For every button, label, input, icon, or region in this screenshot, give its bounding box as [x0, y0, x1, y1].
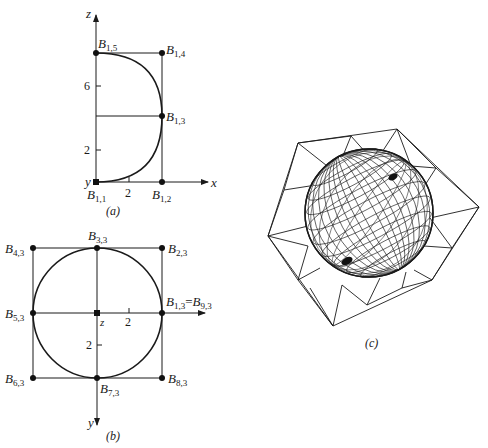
point-b83 [159, 375, 165, 381]
tick-label-x-2: 2 [125, 186, 131, 200]
y-axis-label-b: y [86, 415, 94, 430]
point-b43 [30, 245, 36, 251]
label-b73: B7,3 [100, 381, 120, 398]
label-b23: B2,3 [168, 241, 188, 258]
panel-b: 2 2 z y B4,3 B3,3 B2,3 B5,3 B1,3=B9,3 B6… [5, 228, 212, 443]
point-b12 [159, 179, 165, 185]
caption-b: (b) [106, 429, 120, 443]
label-b53: B5,3 [5, 306, 25, 323]
semicircle-curve [96, 53, 162, 182]
panel-c: (c) [268, 128, 479, 350]
label-b14: B1,4 [166, 42, 186, 59]
point-b23 [159, 245, 165, 251]
panel-a: 6 2 2 z x y B1,5 B1,4 B1,3 B1,1 B1,2 (a) [83, 6, 217, 218]
point-b14 [159, 50, 165, 56]
z-axis-label-b: z [99, 316, 105, 328]
x-axis-label: x [210, 175, 217, 190]
label-b11: B1,1 [87, 187, 106, 204]
point-b63 [30, 375, 36, 381]
control-polygon [96, 53, 162, 182]
label-b13: B1,3 [166, 109, 186, 126]
tick-label-z-6: 6 [84, 79, 90, 93]
label-b63: B6,3 [5, 371, 25, 388]
label-b43: B4,3 [5, 241, 25, 258]
z-axis-label: z [85, 6, 91, 21]
tick-label-x-2-b: 2 [125, 315, 131, 329]
tick-label-z-2: 2 [84, 143, 90, 157]
tick-label-y-2-b: 2 [86, 338, 92, 352]
figure-canvas: 6 2 2 z x y B1,5 B1,4 B1,3 B1,1 B1,2 (a)… [0, 0, 488, 448]
point-b13-b93 [159, 310, 165, 316]
point-origin [94, 310, 100, 316]
point-b13 [159, 113, 165, 119]
label-b83: B8,3 [168, 371, 188, 388]
point-b33 [94, 245, 100, 251]
point-b11 [93, 179, 99, 185]
caption-c: (c) [365, 336, 378, 350]
label-b15: B1,5 [98, 36, 118, 53]
caption-a: (a) [106, 204, 120, 218]
label-b13-eq-b93: B1,3=B9,3 [166, 294, 212, 311]
label-b12: B1,2 [152, 187, 171, 204]
wireframe-sphere [286, 128, 453, 297]
label-b33: B3,3 [88, 228, 108, 245]
point-b53 [30, 310, 36, 316]
